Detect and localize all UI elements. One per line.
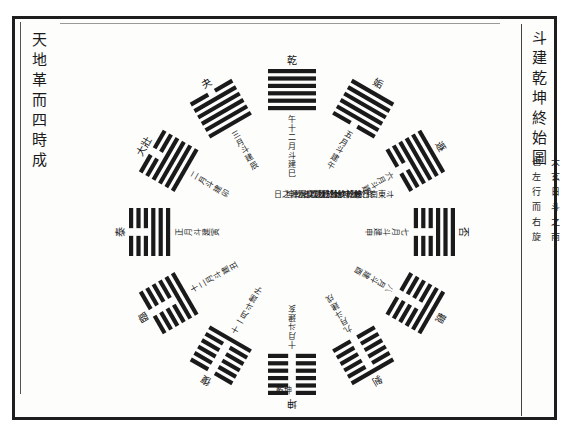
hexagram-wheel: 乾午十二月斗建巳姤五月斗建午遯六月斗建未否七月斗建申觀八月斗建酉剝九月斗建戌坤十… [0, 0, 573, 440]
hexagram-label: 坤 [287, 398, 297, 410]
bottom-caption: 乾坤 [276, 384, 292, 395]
hexagram-label: 剝 [371, 373, 385, 388]
hexagram-label: 否 [458, 227, 469, 237]
hexagram-10: 大壯二月斗建卯 [126, 122, 242, 217]
hexagram-8: 臨十二月斗建丑 [126, 243, 250, 342]
month-spoke-text: 五月斗建午 [325, 129, 354, 172]
month-spoke-text: 八月斗建酉 [352, 265, 395, 294]
month-spoke-text: 二月斗建卯 [189, 170, 232, 199]
hexagram-11: 夬三月斗建辰 [182, 66, 277, 182]
hexagram-label: 姤 [371, 76, 385, 91]
month-spoke-text: 十二月斗建丑 [188, 260, 240, 294]
month-spoke-text: 三月斗建辰 [230, 129, 259, 172]
hexagram-7: 復十一月斗建子 [182, 275, 281, 399]
month-spoke-text: 十月斗建亥 [288, 304, 296, 350]
hexagram-label: 夬 [199, 75, 214, 90]
hexagram-4: 觀八月斗建酉 [342, 247, 457, 341]
month-spoke-text: 正月斗建寅 [175, 228, 220, 236]
month-spoke-text: 十一月斗建子 [230, 285, 264, 337]
hexagram-label: 乾 [287, 54, 297, 66]
hexagram-label: 臨 [135, 311, 150, 326]
hexagram-label: 大壯 [133, 134, 153, 157]
hexagram-5: 剝九月斗建戌 [307, 282, 401, 397]
hexagram-3: 否七月斗建申 [364, 208, 469, 256]
hexagram-label: 泰 [114, 227, 126, 237]
commentary-column: 之交水源之日 [272, 190, 320, 200]
hexagram-label: 觀 [433, 311, 448, 325]
hexagram-label: 復 [199, 373, 214, 388]
hexagram-1: 姤五月斗建午 [307, 67, 401, 182]
hexagram-0: 乾午十二月斗建巳 [268, 54, 316, 178]
month-spoke-text: 七月斗建申 [364, 228, 409, 236]
month-spoke-text: 午十二月斗建巳 [288, 114, 296, 178]
hexagram-2: 遯六月斗建未 [342, 123, 457, 217]
hexagram-label: 遯 [433, 139, 448, 153]
month-spoke-text: 九月斗建戌 [325, 292, 354, 335]
hexagram-9: 泰正月斗建寅 [114, 208, 220, 256]
